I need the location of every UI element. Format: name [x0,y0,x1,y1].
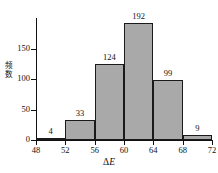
x-tick-label: 56 [90,145,99,155]
histogram-bar [124,23,153,140]
x-tick-label: 72 [208,145,217,155]
histogram-chart: 050100150 48525660646872 433124192999 ΔE… [0,0,218,173]
bar-value-label: 124 [95,53,124,62]
histogram-bar [153,80,182,140]
bar-value-label: 192 [124,12,153,21]
x-tick-label: 52 [61,145,70,155]
x-tick-label: 60 [120,145,129,155]
y-axis-title: 频数 [2,62,14,79]
histogram-bar [36,138,65,140]
plot-area [36,18,212,140]
y-tick-label: 0 [26,135,30,144]
bar-value-label: 9 [183,124,212,133]
bar-value-label: 4 [36,127,65,136]
y-axis-tick-labels: 050100150 [0,0,30,173]
y-tick-label: 100 [17,74,30,83]
bar-value-label: 33 [65,109,94,118]
x-tick-label: 64 [149,145,158,155]
x-axis-title-text: E [109,157,115,167]
y-tick-label: 150 [17,44,30,53]
histogram-bar [183,135,212,140]
x-tick-label: 68 [178,145,187,155]
histogram-bar [95,64,124,140]
y-tick-label: 50 [22,105,31,114]
x-axis-title: ΔE [0,157,218,167]
histogram-bar [65,120,94,140]
bar-value-label: 99 [153,69,182,78]
x-tick-label: 48 [32,145,41,155]
bar-series [36,18,212,140]
